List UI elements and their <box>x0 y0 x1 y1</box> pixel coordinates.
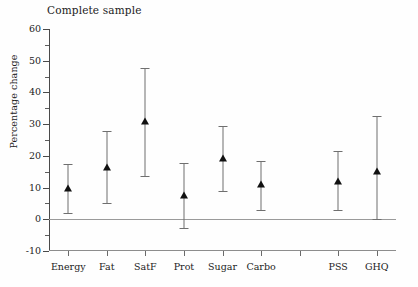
y-tick-label: 30 <box>29 119 41 129</box>
x-tick-label-Energy: Energy <box>51 262 86 272</box>
error-bar-cap-upper <box>64 164 73 165</box>
y-tick-label: 40 <box>29 88 41 98</box>
x-tick-label-SatF: SatF <box>134 262 157 272</box>
error-bar-cap-lower <box>179 228 188 229</box>
error-bar-cap-lower <box>64 213 73 214</box>
x-tick-GHQ <box>377 251 378 256</box>
y-tick-20 <box>43 156 49 157</box>
error-bar-cap-lower <box>141 176 150 177</box>
error-bar-cap-upper <box>334 151 343 152</box>
y-tick-minor <box>45 203 49 204</box>
y-tick-label: 20 <box>29 151 41 161</box>
x-tick-Sugar <box>223 251 224 256</box>
x-tick-label-GHQ: GHQ <box>365 262 389 272</box>
error-bar-cap-lower <box>372 219 381 220</box>
y-tick-label: -10 <box>26 246 41 256</box>
y-tick-10 <box>43 188 49 189</box>
x-tick-label-Prot: Prot <box>174 262 194 272</box>
x-tick-label-Carbo: Carbo <box>246 262 275 272</box>
marker-triangle <box>180 191 188 198</box>
error-bar-cap-lower <box>218 191 227 192</box>
chart-title: Complete sample <box>47 4 142 16</box>
error-bar-cap-upper <box>218 126 227 127</box>
y-tick-0 <box>43 219 49 220</box>
y-tick-minor <box>45 235 49 236</box>
error-bar-cap-upper <box>102 131 111 132</box>
x-tick <box>300 251 301 256</box>
marker-triangle <box>219 155 227 162</box>
x-tick-SatF <box>145 251 146 256</box>
error-bar-cap-lower <box>102 203 111 204</box>
x-tick-Fat <box>107 251 108 256</box>
error-bar-cap-upper <box>372 116 381 117</box>
x-tick-Carbo <box>261 251 262 256</box>
x-tick-Prot <box>184 251 185 256</box>
y-tick-minor <box>45 172 49 173</box>
error-bar-cap-upper <box>141 68 150 69</box>
y-tick-minor <box>45 108 49 109</box>
error-bar-cap-lower <box>334 210 343 211</box>
y-tick-60 <box>43 29 49 30</box>
error-bar-cap-lower <box>257 210 266 211</box>
y-tick--10 <box>43 251 49 252</box>
y-axis-label: Percentage change <box>8 37 19 167</box>
marker-triangle <box>103 163 111 170</box>
chart-figure: Complete sample Percentage change -10010… <box>0 0 418 287</box>
y-tick-label: 60 <box>29 24 41 34</box>
x-tick-label-PSS: PSS <box>329 262 348 272</box>
x-tick-label-Fat: Fat <box>99 262 114 272</box>
y-tick-label: 50 <box>29 56 41 66</box>
x-tick-Energy <box>68 251 69 256</box>
x-tick-label-Sugar: Sugar <box>208 262 237 272</box>
marker-triangle <box>373 167 381 174</box>
x-tick-PSS <box>338 251 339 256</box>
error-bar-cap-upper <box>257 161 266 162</box>
y-tick-label: 10 <box>29 183 41 193</box>
marker-triangle <box>334 177 342 184</box>
y-tick-40 <box>43 92 49 93</box>
y-tick-minor <box>45 77 49 78</box>
y-axis-line <box>49 29 50 251</box>
y-tick-minor <box>45 45 49 46</box>
marker-triangle <box>257 181 265 188</box>
zero-reference-line <box>49 219 396 220</box>
y-tick-30 <box>43 124 49 125</box>
y-tick-label: 0 <box>35 215 41 225</box>
y-tick-50 <box>43 61 49 62</box>
plot-area: -100102030405060 EnergyFatSatFProtSugarC… <box>49 29 396 251</box>
marker-triangle <box>64 184 72 191</box>
marker-triangle <box>141 117 149 124</box>
y-tick-minor <box>45 140 49 141</box>
error-bar-cap-upper <box>179 163 188 164</box>
